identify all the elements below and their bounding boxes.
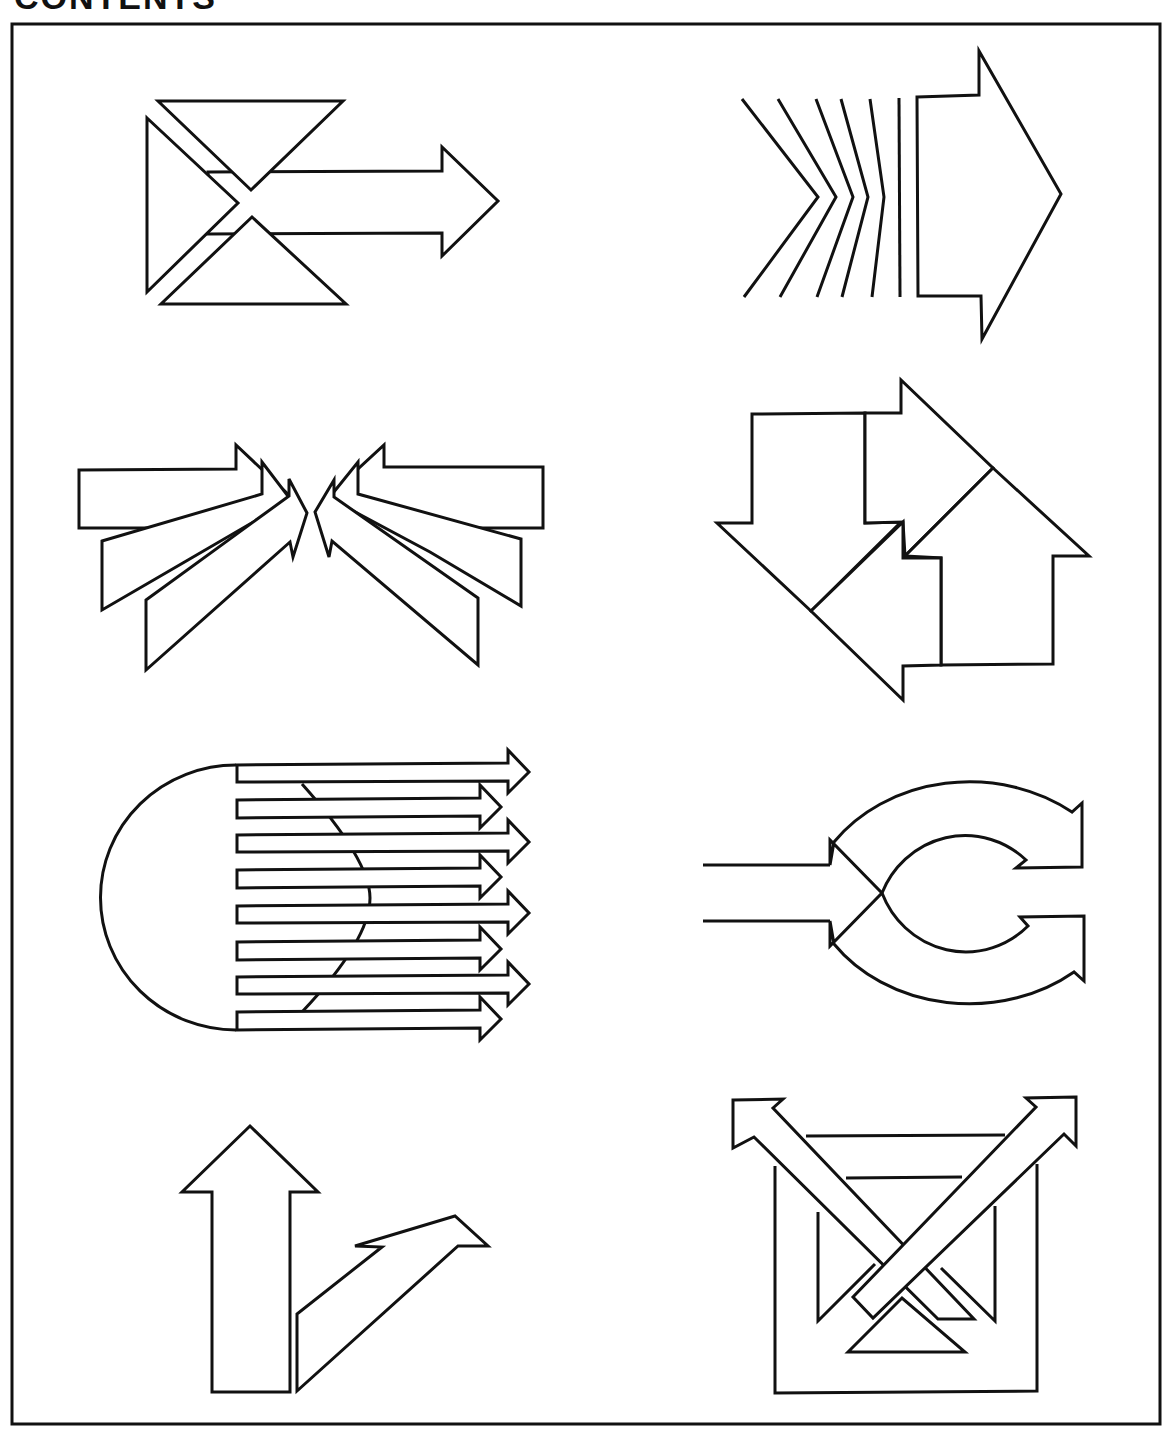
arrow-row-1: [237, 750, 529, 793]
arrow-row-8: [237, 997, 501, 1040]
arrow-row-6: [237, 927, 501, 970]
figure-crossing-arrows-in-box: [733, 1097, 1076, 1393]
figure-arrow-through-hourglass: [147, 101, 498, 304]
figure-interlocking-cycle-arrows: [717, 380, 1089, 700]
figure-split-circular-arrows: [703, 782, 1084, 1004]
arrow-row-3: [237, 820, 529, 863]
arrow-row-5: [237, 891, 529, 934]
arrow-row-7: [237, 962, 529, 1005]
figure-branching-up-arrows: [182, 1126, 488, 1392]
arrow-row-2: [237, 785, 501, 828]
figure-converging-arrows: [79, 445, 543, 670]
figure-parallel-arrows-from-semicircle: [100, 750, 529, 1040]
clipart-sheet: [0, 0, 1171, 1436]
figure-chevron-lines-to-block-arrow: [742, 51, 1061, 339]
